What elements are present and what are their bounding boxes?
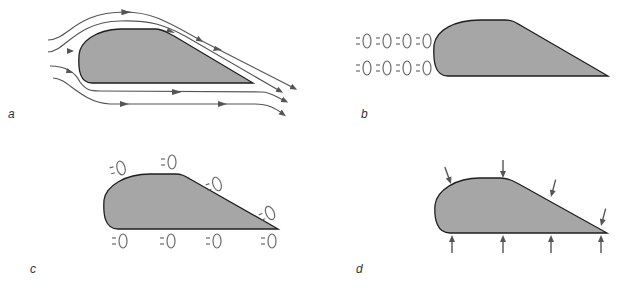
airfoil-shape xyxy=(434,20,608,76)
particles-bottom xyxy=(112,234,276,248)
airfoil-shape xyxy=(435,178,607,233)
airfoil-figure xyxy=(0,0,623,289)
pressure-arrows-bottom xyxy=(449,235,604,253)
airfoil-shape xyxy=(104,174,278,229)
panel-b xyxy=(356,20,608,76)
panel-label-a: a xyxy=(8,107,15,121)
panel-d xyxy=(435,160,609,253)
panel-c xyxy=(104,155,278,248)
panel-label-b: b xyxy=(361,107,368,121)
airfoil-shape xyxy=(79,29,253,83)
particle-row-top xyxy=(356,34,431,48)
particle-row-bottom xyxy=(356,61,431,75)
panel-label-c: c xyxy=(30,262,36,276)
panel-a xyxy=(48,10,294,114)
panel-label-d: d xyxy=(356,262,363,276)
